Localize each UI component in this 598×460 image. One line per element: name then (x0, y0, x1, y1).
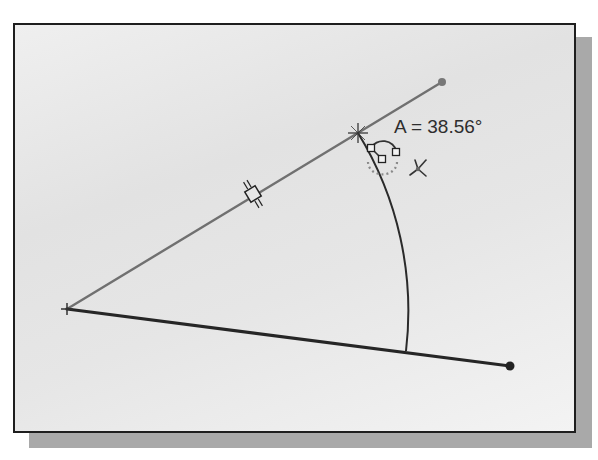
angle-arc[interactable] (358, 133, 408, 351)
midpoint-marker-icon (240, 178, 266, 210)
upper-endpoint-icon[interactable] (438, 78, 446, 86)
cursor-x-icon (410, 160, 426, 176)
vertex-plus-icon (61, 303, 73, 315)
lower-line[interactable] (67, 309, 510, 366)
angle-dimension-label[interactable]: A = 38.56° (394, 116, 482, 137)
lower-endpoint-icon[interactable] (506, 362, 515, 371)
intersection-cross-icon (348, 123, 368, 143)
sketch-drawing[interactable]: A = 38.56° (0, 0, 598, 460)
